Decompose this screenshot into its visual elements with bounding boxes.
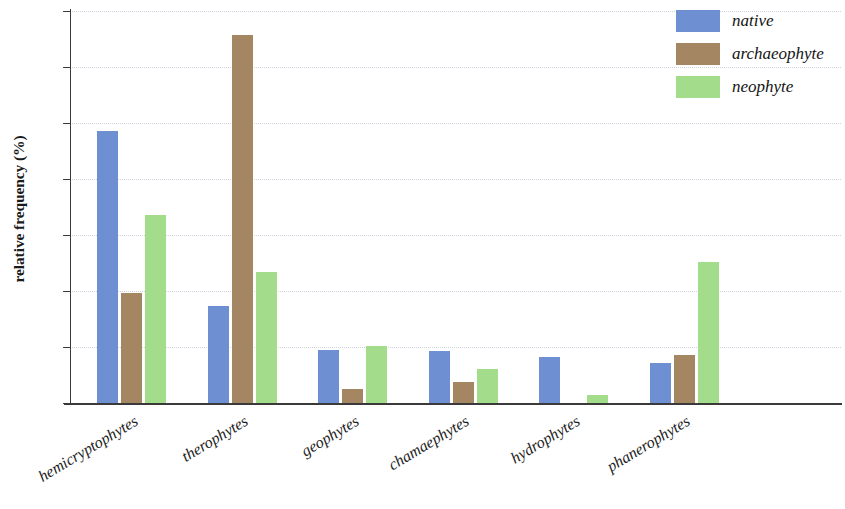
bar (97, 131, 118, 403)
bar (539, 357, 560, 403)
legend-item: archaeophyte (676, 41, 845, 67)
bar (256, 272, 277, 403)
y-axis-title: relative frequency (%) (10, 89, 28, 329)
bar (318, 350, 339, 403)
gridline (70, 347, 841, 348)
gridline (70, 291, 841, 292)
legend-label: archaeophyte (732, 44, 824, 64)
legend-swatch (676, 10, 720, 32)
bar (674, 355, 695, 403)
bar (342, 389, 363, 403)
bar (429, 351, 450, 403)
bar-chart: relative frequency (%) 010203040506070 h… (0, 0, 845, 509)
bar (477, 369, 498, 403)
bar (121, 293, 142, 403)
bar (366, 346, 387, 403)
legend-swatch (676, 43, 720, 65)
gridline (70, 235, 841, 236)
y-axis-line (70, 9, 71, 405)
legend-label: native (732, 11, 774, 31)
bar (145, 215, 166, 403)
bar (698, 262, 719, 403)
bar (587, 395, 608, 403)
gridline (70, 123, 841, 124)
bar (453, 382, 474, 403)
bar (650, 363, 671, 403)
bar (232, 35, 253, 403)
legend-label: neophyte (732, 77, 793, 97)
legend-item: neophyte (676, 74, 845, 100)
bar (208, 306, 229, 403)
legend-swatch (676, 76, 720, 98)
legend: nativearchaeophyteneophyte (676, 8, 845, 107)
legend-item: native (676, 8, 845, 34)
x-axis-line (64, 403, 842, 405)
gridline (70, 179, 841, 180)
